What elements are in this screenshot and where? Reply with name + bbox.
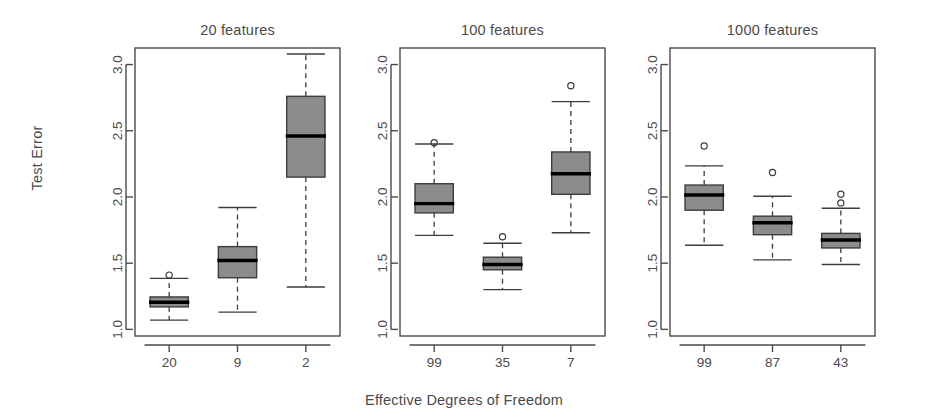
box-body [415,184,453,213]
outlier-point [838,191,844,197]
outlier-point [838,200,844,206]
y-axis-label: Test Error [29,98,45,218]
panel-2: 1.01.52.02.53.099357 [375,48,605,370]
outlier-point [568,83,574,89]
y-tick-label: 3.0 [110,55,125,74]
y-tick-label: 1.0 [375,320,390,339]
y-tick-label: 3.0 [375,55,390,74]
box-body [685,185,723,210]
y-tick-label: 2.0 [110,188,125,207]
y-tick-label: 2.0 [375,188,390,207]
panel-title-3: 1000 features [670,22,875,38]
boxplot-figure: Test Error Effective Degrees of Freedom … [0,0,928,419]
x-tick-label: 35 [495,355,510,370]
box-43 [821,191,861,264]
x-tick-label: 20 [162,355,177,370]
box-35 [482,234,522,290]
plot-frame [135,48,340,336]
box-99 [414,140,454,236]
x-tick-label: 43 [833,355,848,370]
x-tick-label: 99 [697,355,712,370]
y-tick-label: 1.0 [110,320,125,339]
y-tick-label: 2.5 [375,121,390,140]
y-tick-label: 1.5 [375,254,390,273]
y-tick-label: 1.5 [110,254,125,273]
y-tick-label: 3.0 [645,55,660,74]
y-tick-label: 2.5 [110,121,125,140]
x-tick-label: 7 [567,355,575,370]
outlier-point [701,143,707,149]
y-tick-label: 1.5 [645,254,660,273]
boxplot-canvas: 1.01.52.02.53.020921.01.52.02.53.0993571… [0,0,928,419]
outlier-point [166,272,172,278]
box-20 [149,272,189,320]
box-87 [752,169,792,259]
box-7 [551,83,591,233]
x-tick-label: 9 [234,355,242,370]
x-tick-label: 99 [427,355,442,370]
box-2 [286,54,326,287]
panel-title-2: 100 features [400,22,605,38]
x-tick-label: 2 [302,355,310,370]
y-tick-label: 1.0 [645,320,660,339]
y-tick-label: 2.0 [645,188,660,207]
panel-1: 1.01.52.02.53.02092 [110,48,340,370]
box-9 [217,208,257,313]
outlier-point [769,169,775,175]
panel-title-1: 20 features [135,22,340,38]
x-axis-label: Effective Degrees of Freedom [0,392,928,408]
y-tick-label: 2.5 [645,121,660,140]
outlier-point [499,234,505,240]
box-99 [684,143,724,245]
box-body [753,216,791,235]
panel-3: 1.01.52.02.53.0998743 [645,48,875,370]
x-tick-label: 87 [765,355,780,370]
